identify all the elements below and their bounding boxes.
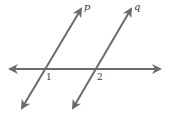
line-q-label: q [134,1,140,12]
parallel-lines-diagram: p q 1 2 [0,0,170,117]
line-p [22,9,81,108]
line-q [73,9,131,108]
angle-2-label: 2 [97,72,103,82]
angle-1-label: 1 [46,72,52,82]
line-p-label: p [84,1,91,12]
